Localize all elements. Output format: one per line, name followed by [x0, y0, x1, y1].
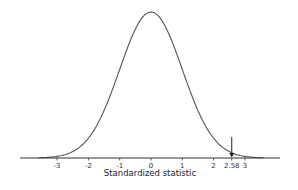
critical-value-arrow: [229, 137, 234, 158]
x-axis-label: Standardized statistic: [104, 168, 197, 178]
arrow-head-icon: [229, 153, 234, 158]
x-tick-label: 2: [211, 162, 215, 170]
x-tick-label: -2: [85, 162, 92, 170]
x-tick-label: 3: [243, 162, 247, 170]
x-tick-label: -3: [54, 162, 61, 170]
normal-curve-chart: -3-2-10122.583 Standardized statistic: [0, 0, 298, 190]
density-curve: [38, 12, 263, 158]
x-tick-label: 2.58: [224, 162, 240, 170]
